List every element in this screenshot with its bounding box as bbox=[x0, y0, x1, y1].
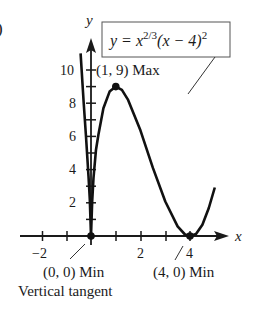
panel-label: ) bbox=[0, 19, 3, 38]
y-tick-label: 10 bbox=[60, 63, 74, 78]
min4-annotation: (4, 0) Min bbox=[153, 264, 215, 281]
min-point-4 bbox=[186, 232, 194, 240]
max-annotation: (1, 9) Max bbox=[96, 62, 160, 79]
origin-min-annotation: (0, 0) Min bbox=[43, 264, 105, 281]
x-tick-label: 4 bbox=[186, 246, 193, 261]
vertical-tangent-annotation: Vertical tangent bbox=[18, 283, 113, 299]
min4-leader-line bbox=[175, 246, 183, 260]
x-tick-label: 2 bbox=[137, 246, 144, 261]
y-tick-label: 4 bbox=[69, 162, 76, 177]
svg-text:y = x2/3(x − 4)2: y = x2/3(x − 4)2 bbox=[108, 29, 207, 50]
x-axis: x −2 2 4 bbox=[20, 228, 242, 261]
function-curve bbox=[81, 53, 215, 236]
max-point bbox=[112, 83, 120, 91]
equation-leader-line bbox=[188, 57, 215, 94]
equation-box: y = x2/3(x − 4)2 bbox=[102, 22, 230, 94]
equation-exp2: 2 bbox=[202, 29, 208, 41]
equation-lhs: y = x bbox=[108, 32, 143, 50]
y-tick-label: 6 bbox=[69, 129, 76, 144]
x-tick-label: −2 bbox=[32, 246, 47, 261]
y-tick-label: 8 bbox=[69, 96, 76, 111]
y-tick-label: 2 bbox=[69, 195, 76, 210]
x-axis-label: x bbox=[234, 228, 242, 244]
equation-exp1: 2/3 bbox=[143, 29, 158, 41]
equation-mid: (x − 4) bbox=[157, 32, 202, 50]
function-graph: ) x −2 2 4 bbox=[0, 0, 262, 320]
origin-leader-line bbox=[70, 244, 85, 259]
origin-min-point bbox=[87, 232, 95, 240]
y-axis-label: y bbox=[84, 12, 93, 28]
